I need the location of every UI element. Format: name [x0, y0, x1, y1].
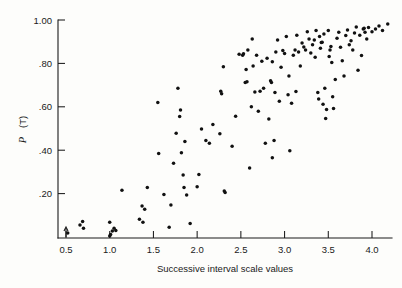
data-point: [355, 25, 359, 29]
data-point: [299, 64, 303, 68]
data-point: [271, 60, 275, 64]
y-tick-label-1.00: 1.00: [34, 15, 53, 26]
data-point: [287, 74, 291, 78]
data-point: [302, 45, 306, 49]
data-point: [197, 173, 201, 177]
data-point: [230, 145, 234, 149]
x-tick-label-1.5: 1.5: [147, 244, 160, 255]
data-point: [109, 233, 113, 237]
plot-axes: [58, 20, 392, 238]
data-point: [293, 48, 297, 52]
data-point: [162, 193, 166, 197]
data-point: [339, 46, 343, 50]
data-point: [272, 139, 276, 143]
data-point: [325, 108, 329, 112]
data-point: [172, 161, 176, 165]
data-point: [337, 30, 341, 34]
scatter-plot: .20.40.60.801.00 0.51.01.52.02.53.03.54.…: [0, 0, 402, 288]
data-point: [271, 156, 275, 160]
data-point: [292, 53, 296, 57]
x-tick-label-1.0: 1.0: [103, 244, 116, 255]
data-point: [327, 55, 331, 59]
data-point: [307, 37, 311, 41]
data-point: [167, 225, 171, 229]
data-point: [260, 59, 264, 63]
data-point: [285, 35, 289, 39]
data-point: [157, 152, 161, 156]
data-point: [244, 68, 248, 72]
data-point: [204, 139, 208, 143]
data-point: [353, 31, 357, 35]
data-point: [248, 166, 252, 170]
y-axis-title-rest: (T): [17, 116, 28, 128]
data-point: [255, 53, 259, 57]
data-point: [365, 37, 369, 41]
data-point: [381, 29, 385, 32]
data-point: [316, 91, 320, 95]
data-point: [178, 115, 182, 119]
data-point: [278, 99, 282, 103]
data-point: [351, 48, 355, 52]
data-point: [306, 30, 310, 34]
data-point: [320, 40, 324, 44]
data-point: [294, 90, 298, 94]
data-point: [174, 132, 178, 136]
data-point: [250, 105, 254, 109]
data-point: [143, 207, 147, 211]
y-tick-label-.60: .60: [39, 101, 52, 112]
data-point: [264, 142, 268, 146]
data-point: [242, 52, 246, 56]
data-point: [140, 204, 144, 208]
data-point: [332, 107, 336, 111]
data-point: [267, 117, 271, 121]
data-point: [273, 91, 277, 95]
data-point: [286, 93, 290, 97]
data-point: [195, 185, 199, 189]
data-points-layer: [66, 22, 389, 238]
data-point: [288, 149, 292, 153]
data-point: [188, 222, 192, 226]
data-point: [297, 50, 301, 54]
data-point: [182, 186, 186, 190]
y-axis-title: P (T): [17, 116, 28, 144]
data-point: [377, 24, 381, 28]
data-point: [331, 95, 335, 99]
data-point: [342, 74, 346, 78]
data-point: [169, 203, 173, 207]
data-point: [200, 127, 204, 131]
data-point: [156, 101, 160, 105]
data-point: [223, 191, 227, 195]
data-point: [335, 36, 339, 40]
data-point: [317, 97, 321, 101]
data-point: [250, 37, 254, 41]
data-point: [246, 48, 250, 52]
data-point: [341, 59, 345, 63]
data-point: [322, 32, 326, 36]
data-point: [309, 51, 313, 55]
data-point: [180, 151, 184, 155]
data-point: [81, 220, 85, 224]
data-point: [276, 38, 280, 42]
data-point: [330, 61, 334, 65]
data-point: [237, 53, 241, 57]
data-point: [304, 48, 308, 52]
data-point: [358, 33, 362, 37]
data-point: [120, 189, 124, 193]
y-axis-tick-labels: .20.40.60.801.00: [34, 15, 53, 200]
data-point: [283, 52, 287, 56]
data-point: [318, 35, 322, 39]
data-point: [176, 87, 180, 91]
data-point: [270, 81, 274, 85]
data-point: [313, 38, 317, 42]
x-tick-label-3.0: 3.0: [278, 244, 291, 255]
data-point: [346, 28, 350, 32]
data-point: [234, 115, 238, 119]
data-point: [327, 29, 331, 32]
data-point: [360, 54, 364, 58]
data-point: [321, 102, 325, 106]
data-point: [146, 186, 150, 190]
data-point: [295, 33, 299, 37]
data-point: [258, 89, 262, 93]
data-point: [311, 43, 315, 47]
figure-container: .20.40.60.801.00 0.51.01.52.02.53.03.54.…: [0, 0, 402, 288]
